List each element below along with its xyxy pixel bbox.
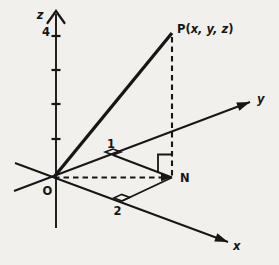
x-axis-line [15,163,228,242]
right-angle-marker-N [158,155,171,173]
z-tick-label-4: 4 [42,25,50,39]
y-axis-arrowhead [236,102,250,111]
point-P-label: P(x, y, z) [177,22,233,36]
z-axis-label: z [36,8,44,22]
x-axis-label: x [232,239,241,253]
y-foot-label-1: 1 [107,137,115,151]
scanned-figure-page: z4yxON12P(x, y, z) [0,0,279,265]
segment-N-to-y-axis-foot [113,155,172,178]
y-axis-label: y [257,92,265,106]
x-axis-arrowhead [214,233,228,242]
origin-label: O [43,184,53,198]
point-N-label: N [180,171,190,185]
coordinate-diagram: z4yxON12P(x, y, z) [0,0,279,265]
x-foot-label-2: 2 [113,204,121,218]
